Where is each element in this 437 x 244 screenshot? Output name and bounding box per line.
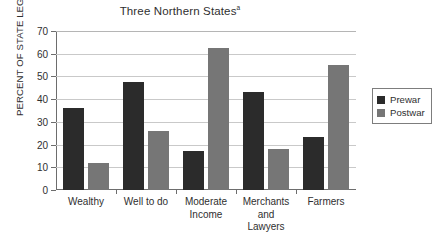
bar-group <box>236 31 296 190</box>
y-axis-tick-label: 0 <box>42 185 48 196</box>
bar-prewar <box>63 108 84 190</box>
legend-item-label: Prewar <box>390 94 420 105</box>
group-separator-tick <box>116 190 117 194</box>
category-label-line: Wealthy <box>56 196 116 209</box>
bar-postwar <box>208 48 229 190</box>
category-label-line: Moderate <box>176 196 236 209</box>
chart-figure: Three Northern Statesa PERCENT OF STATE … <box>0 0 437 244</box>
bar-postwar <box>268 149 289 190</box>
chart-title-superscript: a <box>237 4 241 11</box>
group-separator-tick <box>296 190 297 194</box>
y-axis-tick-label: 70 <box>37 26 48 37</box>
legend-swatch-icon <box>377 109 385 117</box>
category-label-line: Farmers <box>296 196 356 209</box>
legend-item-label: Postwar <box>390 107 425 118</box>
bar-group <box>296 31 356 190</box>
y-axis-tick-label: 50 <box>37 71 48 82</box>
category-label-line: Lawyers <box>236 221 296 234</box>
bar-prewar <box>303 137 324 190</box>
y-axis-tick-label: 30 <box>37 116 48 127</box>
category-label-line: Income <box>176 209 236 222</box>
x-axis-category-label: Wealthy <box>56 196 116 209</box>
plot-area: 010203040506070 <box>56 31 356 190</box>
y-axis-tick-label: 40 <box>37 94 48 105</box>
bar-group <box>116 31 176 190</box>
x-axis-category-label: Farmers <box>296 196 356 209</box>
y-axis-tick-mark <box>51 190 56 191</box>
chart-title-text: Three Northern States <box>120 5 237 17</box>
chart-title: Three Northern Statesa <box>0 5 360 17</box>
bar-prewar <box>243 92 264 190</box>
bar-postwar <box>88 163 109 190</box>
legend-item-prewar[interactable]: Prewar <box>377 93 425 106</box>
bar-prewar <box>123 82 144 190</box>
bar-group <box>176 31 236 190</box>
category-label-line: Well to do <box>116 196 176 209</box>
bar-prewar <box>183 151 204 190</box>
category-label-line: Merchants <box>236 196 296 209</box>
x-axis-category-label: Well to do <box>116 196 176 209</box>
bar-postwar <box>148 131 169 190</box>
x-axis-category-label: MerchantsandLawyers <box>236 196 296 234</box>
y-axis-tick-label: 10 <box>37 162 48 173</box>
bar-group <box>56 31 116 190</box>
group-separator-tick <box>176 190 177 194</box>
y-axis-tick-label: 60 <box>37 48 48 59</box>
group-separator-tick <box>236 190 237 194</box>
bar-postwar <box>328 65 349 190</box>
category-label-line: and <box>236 209 296 222</box>
legend-item-postwar[interactable]: Postwar <box>377 106 425 119</box>
y-axis-title: PERCENT OF STATE LEGISLATORS <box>14 0 28 116</box>
chart-legend: PrewarPostwar <box>372 88 432 124</box>
x-axis-category-label: ModerateIncome <box>176 196 236 221</box>
y-axis-tick-label: 20 <box>37 139 48 150</box>
legend-swatch-icon <box>377 96 385 104</box>
